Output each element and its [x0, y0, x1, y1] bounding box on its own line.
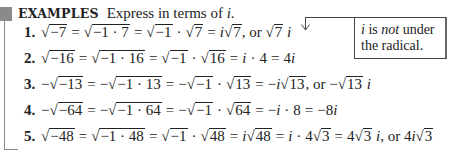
arrow-down-icon	[301, 24, 310, 31]
callout-leader-line	[305, 17, 354, 18]
callout-line-1: i is not under	[361, 22, 439, 38]
example-row-5: 5. √−48 = √−1 · 48 = √−1 · √48 = i√48 = …	[24, 128, 433, 145]
example-row-4: 4. −√−64 = −√−1 · 64 = −√−1 · √64 = −i ·…	[24, 102, 337, 119]
callout-note: i is not under the radical.	[354, 17, 447, 59]
examples-header: EXAMPLESExpress in terms of i.	[18, 5, 235, 22]
example-row-2: 2. √−16 = √−1 · 16 = √−1 · √16 = i · 4 =…	[24, 50, 295, 67]
side-rule	[4, 14, 5, 149]
examples-label: EXAMPLES	[18, 6, 99, 21]
side-rule-foot	[4, 149, 18, 150]
example-row-1: 1. √−7 = √−1 · 7 = √−1 · √7 = i√7, or √7…	[24, 24, 291, 41]
callout-line-2: the radical.	[361, 38, 439, 54]
examples-instruction: Express in terms of i.	[107, 5, 235, 21]
example-row-3: 3. −√−13 = −√−1 · 13 = −√−1 · √13 = −i√1…	[24, 76, 371, 93]
side-tab	[0, 7, 12, 21]
